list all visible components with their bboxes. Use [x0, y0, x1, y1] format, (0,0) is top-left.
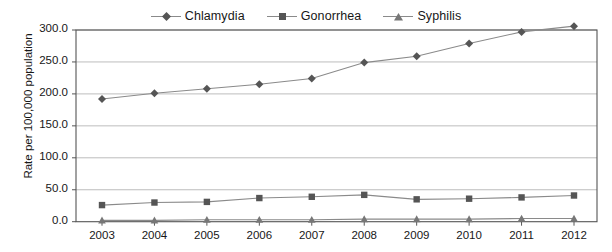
data-point[interactable] [466, 195, 472, 201]
x-tick-label: 2011 [499, 229, 545, 241]
plot-area [0, 0, 612, 252]
y-tick-label: 100.0 [26, 150, 68, 162]
data-point[interactable] [308, 75, 316, 83]
x-axis-ticks [102, 222, 574, 226]
x-tick-label: 2006 [236, 229, 282, 241]
data-point[interactable] [361, 192, 367, 198]
series-line [102, 219, 574, 221]
data-point[interactable] [256, 195, 262, 201]
x-tick-label: 2007 [289, 229, 335, 241]
data-point[interactable] [204, 199, 210, 205]
y-tick-label: 200.0 [26, 86, 68, 98]
data-series-layer [98, 22, 578, 223]
data-point[interactable] [360, 59, 368, 67]
data-point[interactable] [99, 202, 105, 208]
data-point[interactable] [518, 28, 526, 36]
data-point[interactable] [465, 39, 473, 47]
series-line [102, 195, 574, 205]
x-tick-label: 2009 [394, 229, 440, 241]
series-chlamydia [98, 22, 578, 103]
x-tick-label: 2008 [341, 229, 387, 241]
y-tick-label: 0.0 [26, 214, 68, 226]
data-point[interactable] [570, 22, 578, 30]
data-point[interactable] [150, 89, 158, 97]
data-point[interactable] [413, 196, 419, 202]
data-point[interactable] [571, 192, 577, 198]
data-point[interactable] [413, 52, 421, 60]
y-tick-label: 150.0 [26, 118, 68, 130]
data-point[interactable] [98, 95, 106, 103]
data-point[interactable] [151, 199, 157, 205]
y-tick-label: 300.0 [26, 22, 68, 34]
series-line [102, 26, 574, 99]
data-point[interactable] [255, 80, 263, 88]
chart-container: Chlamydia Gonorrhea Syphilis Rate per 10… [0, 0, 612, 252]
x-tick-label: 2004 [131, 229, 177, 241]
y-tick-label: 250.0 [26, 54, 68, 66]
gridlines [76, 30, 597, 190]
series-gonorrhea [99, 192, 577, 209]
data-point[interactable] [518, 194, 524, 200]
y-tick-label: 50.0 [26, 182, 68, 194]
x-tick-label: 2005 [184, 229, 230, 241]
y-axis-ticks [72, 30, 76, 222]
data-point[interactable] [203, 85, 211, 93]
x-tick-label: 2010 [446, 229, 492, 241]
x-tick-label: 2003 [79, 229, 125, 241]
x-tick-label: 2012 [551, 229, 597, 241]
data-point[interactable] [309, 194, 315, 200]
